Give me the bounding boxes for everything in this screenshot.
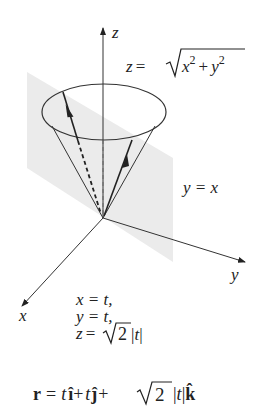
- surface-equation: z= x2+y2: [125, 49, 245, 76]
- plane-y-equals-x: [27, 72, 173, 262]
- x-axis-label: x: [18, 306, 27, 325]
- svg-text:r=tî+tĵ+: r=tî+tĵ+: [33, 384, 109, 404]
- svg-text:|t|k̂: |t|k̂: [173, 383, 195, 404]
- y-axis: [103, 218, 245, 262]
- svg-text:2: 2: [155, 384, 165, 405]
- svg-text:z=: z=: [125, 57, 145, 76]
- svg-text:|t|: |t|: [131, 325, 143, 344]
- svg-text:z=: z=: [75, 324, 95, 343]
- plane-label: y = x: [181, 178, 219, 197]
- y-axis-label: y: [229, 265, 239, 284]
- svg-text:x2+y2: x2+y2: [181, 53, 225, 76]
- param-z: z= 2 |t|: [75, 323, 143, 344]
- svg-text:2: 2: [118, 324, 127, 344]
- z-axis-label: z: [111, 23, 119, 42]
- cone-plane-diagram: z y x z= x2+y2 y = x x = t, y = t, z= 2 …: [0, 0, 264, 416]
- vector-equation: r=tî+tĵ+ 2 |t|k̂: [33, 382, 195, 405]
